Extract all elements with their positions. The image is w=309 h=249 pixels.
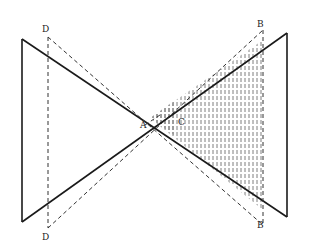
label-d-bottom: D — [42, 232, 49, 242]
label-b-top: B — [257, 19, 264, 29]
label-a: A — [139, 120, 147, 130]
diagram: D D B B A C — [0, 0, 309, 249]
label-d-top: D — [42, 24, 49, 34]
label-c: C — [178, 117, 185, 127]
label-b-bottom: B — [257, 220, 264, 230]
